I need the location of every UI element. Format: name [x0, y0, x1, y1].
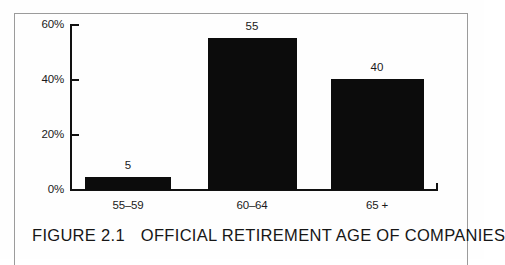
figure-caption-title: OFFICIAL RETIREMENT AGE OF COMPANIES [141, 226, 505, 244]
bar-value-55-59: 5 [98, 159, 158, 171]
y-axis-tick-0 [70, 189, 79, 191]
x-axis-end-tick [436, 183, 438, 191]
x-axis-category-label-55-59: 55–59 [98, 199, 158, 211]
bar-60-64[interactable] [208, 38, 297, 190]
bar-value-65-plus: 40 [347, 61, 407, 73]
y-axis-line [70, 25, 72, 191]
y-axis-tick-label-40: 40% [8, 73, 64, 85]
y-axis-tick-40 [70, 79, 79, 81]
figure-caption: FIGURE 2.1OFFICIAL RETIREMENT AGE OF COM… [32, 226, 462, 245]
y-axis-tick-label-60: 60% [8, 18, 64, 30]
bar-value-60-64: 55 [222, 20, 282, 32]
y-axis-tick-20 [70, 134, 79, 136]
bar-65-plus[interactable] [331, 79, 424, 190]
bar-55-59[interactable] [85, 177, 171, 190]
y-axis-tick-label-20: 20% [8, 128, 64, 140]
figure-caption-number: FIGURE 2.1 [32, 226, 125, 244]
y-axis-tick-label-0: 0% [8, 183, 64, 195]
y-axis-tick-60 [70, 24, 79, 26]
x-axis-category-label-65-plus: 65 + [347, 199, 407, 211]
x-axis-category-label-60-64: 60–64 [222, 199, 282, 211]
